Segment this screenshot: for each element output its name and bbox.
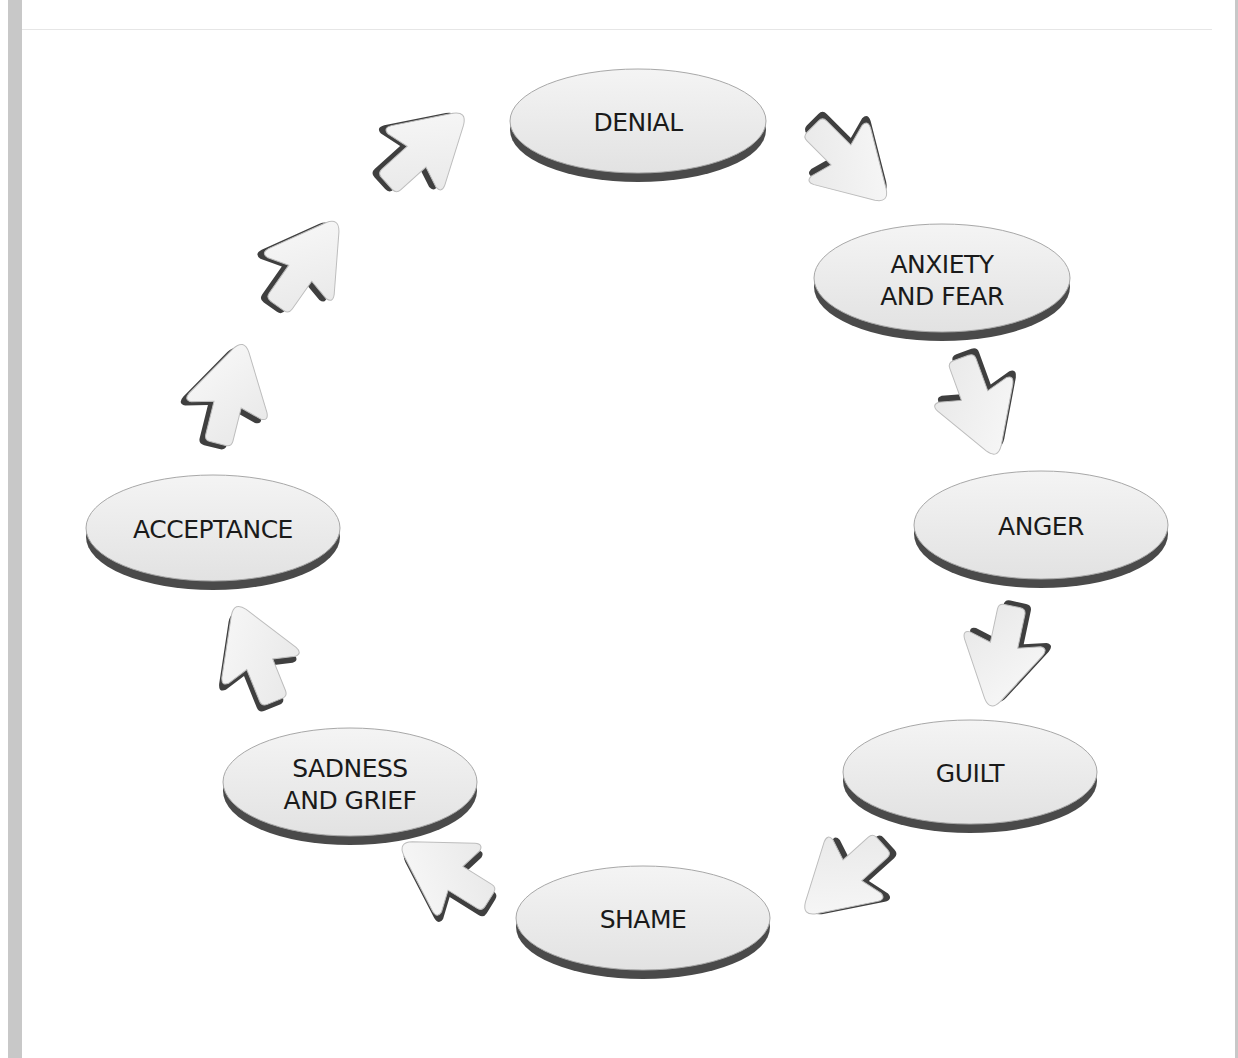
node-anxiety-and-fear: ANXIETY AND FEAR (814, 224, 1070, 341)
node-acceptance: ACCEPTANCE (86, 475, 340, 590)
node-label-shame: SHAME (600, 905, 687, 934)
arrow-icon-sadness-to-acceptance (194, 591, 315, 723)
node-label-acceptance: ACCEPTANCE (133, 515, 293, 544)
emotion-cycle-diagram: DENIAL ANXIETY AND FEAR ANGER GUILT SHAM… (0, 0, 1238, 1058)
node-shame: SHAME (516, 866, 770, 979)
node-label-denial: DENIAL (593, 108, 683, 137)
node-label-anxiety-line2: AND FEAR (880, 282, 1004, 311)
node-label-sadness-line1: SADNESS (292, 754, 407, 783)
arrow-icon-acceptance-to-denial-1 (172, 333, 283, 458)
node-sadness-and-grief: SADNESS AND GRIEF (223, 728, 477, 845)
node-guilt: GUILT (843, 720, 1097, 833)
arrow-icon-denial-to-anxiety (780, 90, 918, 228)
node-anger: ANGER (914, 471, 1168, 588)
arrow-icon-acceptance-to-denial-2 (236, 196, 369, 334)
arrow-icon-anxiety-to-anger (920, 337, 1039, 468)
node-label-anxiety-line1: ANXIETY (890, 250, 994, 279)
arrow-icon-guilt-to-shame (779, 809, 917, 946)
node-label-guilt: GUILT (936, 759, 1006, 788)
node-label-sadness-line2: AND GRIEF (284, 786, 417, 815)
node-denial: DENIAL (510, 69, 766, 182)
node-label-anger: ANGER (998, 512, 1084, 541)
arrow-icon-acceptance-to-denial-3 (352, 81, 490, 218)
arrow-icon-anger-to-guilt (951, 593, 1059, 716)
